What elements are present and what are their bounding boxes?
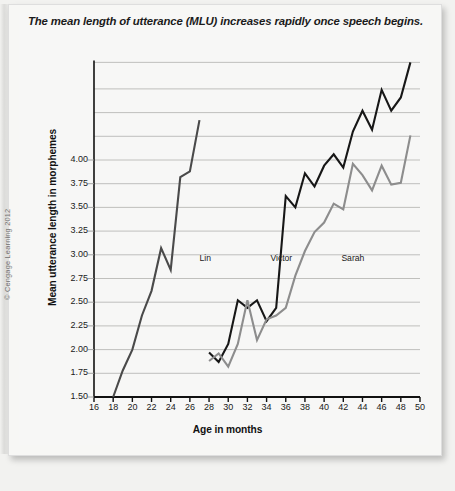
x-axis-title: Age in months bbox=[0, 424, 455, 435]
figure-title: The mean length of utterance (MLU) incre… bbox=[28, 14, 428, 28]
y-tick-label: 2.00 bbox=[54, 344, 88, 354]
y-tick-label: 3.50 bbox=[54, 201, 88, 211]
series-label-victor: Victor bbox=[270, 253, 292, 263]
y-tick-label: 4.00 bbox=[54, 154, 88, 164]
y-tick-label: 3.00 bbox=[54, 249, 88, 259]
series-label-lin: Lin bbox=[200, 253, 211, 263]
y-tick-label: 3.25 bbox=[54, 225, 88, 235]
y-tick-label: 1.75 bbox=[54, 367, 88, 377]
y-tick-label: 3.75 bbox=[54, 178, 88, 188]
y-tick-label: 2.75 bbox=[54, 273, 88, 283]
y-tick-label: 2.50 bbox=[54, 296, 88, 306]
x-tick-label: 50 bbox=[407, 402, 433, 412]
y-tick-label: 2.25 bbox=[54, 320, 88, 330]
y-tick-label: 1.50 bbox=[54, 391, 88, 401]
copyright-notice: © Cengage Learning 2012 bbox=[3, 209, 12, 300]
figure-page: The mean length of utterance (MLU) incre… bbox=[0, 0, 455, 491]
series-label-sarah: Sarah bbox=[341, 253, 364, 263]
